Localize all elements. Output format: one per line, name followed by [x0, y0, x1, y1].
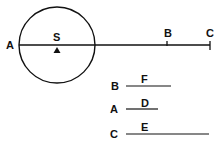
segment-label: F	[141, 73, 148, 85]
label-c: C	[206, 27, 214, 39]
diagram-canvas: A S B C B F A D C E	[0, 0, 219, 147]
label-b: B	[164, 27, 172, 39]
segment-ad: A D	[110, 97, 158, 115]
segment-label: D	[141, 97, 149, 109]
triangle-marker-icon	[54, 47, 61, 53]
segment-ce: C E	[110, 121, 209, 140]
segment-label: E	[141, 121, 148, 133]
segment-end-label: A	[110, 103, 118, 115]
segment-end-label: C	[110, 128, 118, 140]
segment-end-label: B	[111, 80, 119, 92]
segment-bf: B F	[111, 73, 171, 92]
label-a: A	[6, 39, 14, 51]
label-s: S	[53, 31, 60, 43]
